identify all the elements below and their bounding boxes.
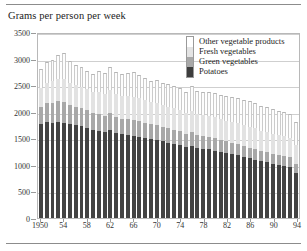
bar-segment [277,135,281,155]
bar-segment [219,152,223,218]
bar-segment [236,144,240,155]
bar-segment [80,87,84,108]
y-axis-tick-mark [31,33,36,34]
bar-segment [248,158,252,218]
bar-segment [137,98,141,121]
bar-segment [288,157,292,167]
y-axis-tick-label: 2500 [14,82,30,91]
bar-segment [282,166,286,218]
bar-segment [178,131,182,145]
bar-segment [80,67,84,87]
bar-segment [85,71,89,90]
y-axis-tick-label: 2000 [14,108,30,117]
bar-segment [195,135,199,148]
bar-segment [137,75,141,98]
bar-segment [114,94,118,117]
bar-segment [242,146,246,157]
bar-segment [288,138,292,158]
bar-segment [62,53,66,79]
bar-segment [282,156,286,166]
x-axis-tick-mark [87,219,88,222]
bar-segment [161,141,165,218]
bar-segment [195,114,199,135]
x-axis-tick-mark [157,219,158,222]
bar-segment [155,80,159,102]
y-axis-tick-label: 0 [26,215,30,224]
bar-segment [120,119,124,134]
bar-segment [108,113,112,130]
bar-segment [97,92,101,115]
bar-segment [271,109,275,134]
bar-segment [253,160,257,218]
y-axis-tick-label: 1500 [14,135,30,144]
bar-segment [62,79,66,102]
legend-swatch [187,57,193,67]
bar-segment [172,130,176,144]
bar-segment [277,165,281,218]
bar-segment [184,92,188,114]
legend-label: Potatoes [199,66,284,76]
bar-segment [288,114,292,137]
bar-segment [155,103,159,125]
bar-segment [166,143,170,218]
bar-segment [45,62,49,82]
bar-segment [97,131,101,218]
y-axis-tick-mark [31,60,36,61]
bar-segment [51,103,55,123]
bar-segment [207,137,211,149]
legend-swatch [187,67,193,77]
bar-segment [184,134,188,147]
bar-segment [253,149,257,160]
bar-segment [207,116,211,137]
legend-swatch-column [186,36,194,78]
x-axis-tick-mark [227,219,228,222]
bar-segment [166,128,170,142]
bar-segment [155,125,159,140]
x-axis-tick-mark [133,219,134,222]
bar-segment [149,102,153,124]
bar-segment [68,124,72,218]
bar-segment [103,116,107,132]
y-axis-tick-label: 3500 [14,29,30,38]
bottom-divider-rule [6,243,301,244]
bar-segment [242,157,246,218]
bar-segment [236,98,240,123]
x-axis-tick-label: 78 [200,221,208,230]
bar-segment [103,94,107,116]
bar-segment [277,155,281,165]
bar-segment [68,61,72,82]
bar-segment [114,133,118,218]
bar-segment [126,119,130,135]
bar-segment [45,122,49,218]
bar-segment [85,89,89,110]
x-axis-tick-mark [180,219,181,222]
bar-segment [219,119,223,140]
bar-segment [39,124,43,218]
bar-segment [213,93,217,117]
bar-segment [137,137,141,218]
bar-segment [259,131,263,151]
bar-segment [178,88,182,110]
x-axis-tick-label: 58 [83,221,91,230]
y-axis-tick-mark [31,139,36,140]
bar-segment [51,81,55,103]
bar-segment [132,97,136,120]
bar-segment [259,151,263,161]
bar-segment [201,136,205,149]
bar-segment [190,111,194,132]
bar-segment [85,110,89,128]
x-axis-tick-mark [297,219,298,222]
bar-segment [45,83,49,104]
bar-segment [195,91,199,114]
bar-segment [201,92,205,115]
bar-segment [201,115,205,136]
x-axis-tick-mark [204,219,205,222]
bar-segment [224,121,228,142]
bar-segment [219,95,223,119]
y-axis-tick-mark [31,192,36,193]
bar-segment [91,92,95,112]
bar-segment [91,113,95,130]
bar-segment [108,130,112,218]
bar-segment [248,127,252,148]
y-axis-tick-mark [31,166,36,167]
